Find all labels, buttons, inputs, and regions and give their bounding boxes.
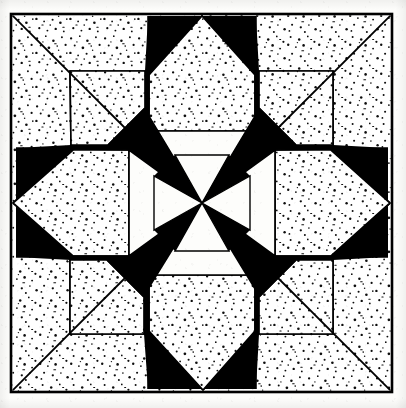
figure-root [0,0,406,408]
quilt-block-diagram [0,0,406,408]
center-pinwheel-group [154,155,250,251]
